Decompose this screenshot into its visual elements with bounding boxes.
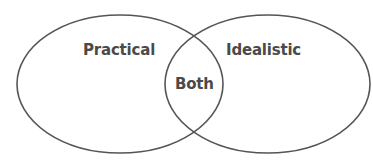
both-intersection-label: Both <box>175 77 214 92</box>
practical-label: Practical <box>83 43 155 58</box>
idealistic-label: Idealistic <box>226 43 301 58</box>
